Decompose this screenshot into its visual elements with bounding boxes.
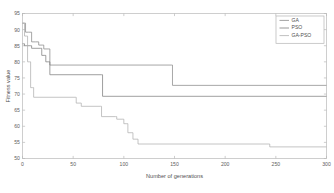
y-axis-title: Fitness value: [5, 70, 11, 103]
y-tick-label: 70: [14, 91, 20, 97]
y-tick-label: 80: [14, 59, 20, 65]
x-axis-title: Number of generations: [146, 173, 203, 179]
y-tick-label: 55: [14, 139, 20, 145]
x-tick-label: 300: [322, 161, 331, 167]
x-tick-label: 100: [120, 161, 129, 167]
legend-label-pso: PSO: [292, 24, 303, 30]
y-tick-label: 75: [14, 75, 20, 81]
chart-legend: GAPSOGA-PSO: [276, 16, 324, 43]
y-tick-label: 95: [14, 10, 20, 16]
series-line-pso: [23, 44, 327, 97]
y-tick-label: 85: [14, 43, 20, 49]
x-tick-label: 0: [21, 161, 24, 167]
fitness-convergence-chart: 50556065707580859095 050100150200250300 …: [0, 0, 334, 193]
chart-container: 50556065707580859095 050100150200250300 …: [0, 0, 334, 193]
y-tick-label: 90: [14, 27, 20, 33]
y-tick-label: 50: [14, 155, 20, 161]
legend-label-ga-pso: GA-PSO: [292, 32, 312, 38]
x-tick-label: 50: [70, 161, 76, 167]
x-tick-label: 200: [221, 161, 230, 167]
x-tick-label: 150: [170, 161, 179, 167]
x-tick-label: 250: [272, 161, 281, 167]
y-tick-label: 65: [14, 107, 20, 113]
y-tick-label: 60: [14, 123, 20, 129]
legend-label-ga: GA: [292, 17, 300, 23]
